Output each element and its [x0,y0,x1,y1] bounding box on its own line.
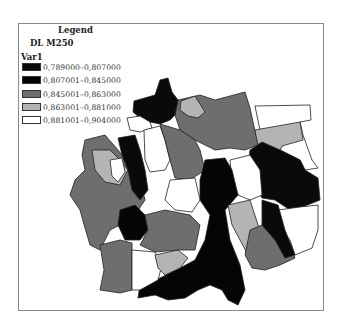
region-sw-darkgray[interactable] [100,240,132,293]
choropleth-map [0,0,342,325]
legend-item: 0,881001–0,904000 [22,115,121,125]
swatch-class1 [22,63,41,71]
legend-layer-name: DL M250 [30,38,73,48]
region-sw-black[interactable] [118,205,148,240]
legend-field-name: Var1 [21,52,43,62]
swatch-class4 [22,103,41,111]
swatch-class2 [22,76,41,84]
swatch-class3 [22,90,41,98]
legend-item-label: 0,807001–0,845000 [43,76,121,85]
legend-item: 0,789000–0,807000 [22,62,121,72]
legend-item: 0,807001–0,845000 [22,75,121,85]
legend-item-label: 0,881001–0,904000 [43,116,121,125]
region-mid-white[interactable] [165,178,200,212]
region-sc-darkgray[interactable] [140,210,200,252]
swatch-class5 [22,116,41,124]
legend-title: Legend [58,25,93,35]
legend-item-label: 0,845001–0,863000 [43,90,121,99]
legend-item-label: 0,863001–0,881000 [43,103,121,112]
legend-item: 0,845001–0,863000 [22,89,121,99]
legend-item-label: 0,789000–0,807000 [43,63,121,72]
legend-item: 0,863001–0,881000 [22,102,121,112]
